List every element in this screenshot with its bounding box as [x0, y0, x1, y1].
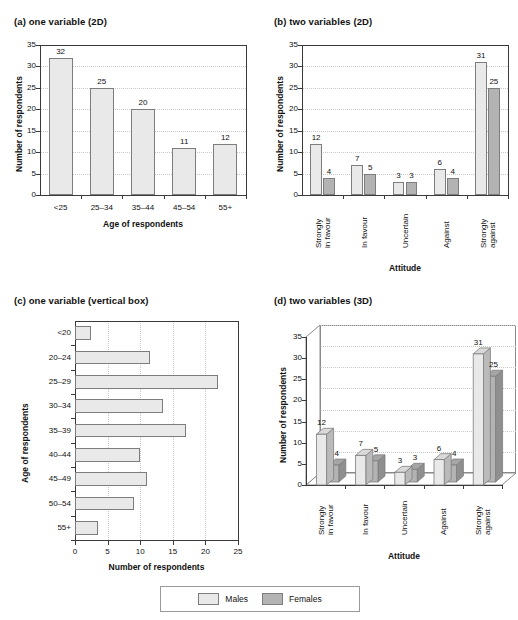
- y-category-label: 25–29: [33, 377, 71, 386]
- y-category-label: 55+: [33, 523, 71, 532]
- y-tick: [302, 400, 306, 401]
- bar-value-label: 5: [367, 445, 385, 454]
- x-axis-title: Number of respondents: [45, 562, 268, 572]
- bar-c-7: [75, 497, 134, 511]
- y-tick: [36, 131, 40, 132]
- x-tick-label: 15: [163, 547, 183, 556]
- x-category-label: Strongly: [317, 506, 326, 535]
- y-tick: [298, 174, 302, 175]
- plot-right-border: [508, 45, 509, 196]
- legend-swatch-males: [198, 593, 219, 605]
- bar-b-females-2: [406, 182, 418, 195]
- gridline-y: [320, 325, 516, 326]
- chart-d-plot-area: 05101520253035124Stronglyin favour75In f…: [258, 285, 518, 580]
- bar-value-label: 32: [49, 47, 73, 56]
- x-tick: [426, 196, 427, 199]
- y-tick: [298, 45, 302, 46]
- bar-a-3: [172, 148, 196, 195]
- gridline-y: [320, 388, 516, 389]
- x-tick-label: 25: [228, 547, 248, 556]
- panel-chart-b: (b) two variables (2D) 05101520253035124…: [258, 0, 518, 285]
- y-tick: [36, 66, 40, 67]
- panel-chart-d: (d) two variables (3D) 05101520253035124…: [258, 285, 518, 580]
- y-tick-label: 30: [14, 61, 36, 70]
- bar-value-label: 31: [472, 51, 490, 60]
- plot-right-border: [246, 45, 247, 196]
- x-tick: [140, 541, 141, 545]
- plot-top-border: [75, 321, 239, 322]
- x-tick: [108, 541, 109, 545]
- y-tick: [298, 195, 302, 196]
- y-tick: [36, 174, 40, 175]
- x-tick: [343, 196, 344, 199]
- bar-a-1: [90, 88, 114, 195]
- y-tick: [71, 491, 75, 492]
- y-tick: [36, 109, 40, 110]
- y-tick: [302, 443, 306, 444]
- bar-b-females-0: [323, 178, 335, 195]
- y-tick: [36, 195, 40, 196]
- bar-value-label: 12: [307, 133, 325, 142]
- x-tick: [502, 486, 503, 489]
- legend-swatch-females: [262, 593, 283, 605]
- y-tick: [302, 422, 306, 423]
- y-tick-label: 35: [280, 332, 302, 341]
- gridline-x: [205, 321, 206, 540]
- bar-c-5: [75, 448, 140, 462]
- x-category-label: 45–54: [164, 203, 205, 212]
- bar-b-males-2: [393, 182, 405, 195]
- bar-c-8: [75, 521, 98, 535]
- y-tick: [36, 152, 40, 153]
- y-tick: [36, 88, 40, 89]
- plot-right-border: [238, 321, 239, 541]
- y-axis-title: Number of respondents: [14, 76, 24, 172]
- bar-value-label: 12: [313, 418, 329, 427]
- bar-c-2: [75, 375, 218, 389]
- x-category-label: Uncertain: [401, 214, 410, 248]
- bar-a-0: [49, 58, 73, 195]
- x-tick: [164, 196, 165, 199]
- y-tick: [298, 152, 302, 153]
- x-tick: [424, 486, 425, 489]
- y-tick: [71, 540, 75, 541]
- y-tick: [302, 358, 306, 359]
- bar-a-4: [213, 144, 237, 195]
- x-axis-title: Attitude: [302, 263, 508, 273]
- bar-value-label: 4: [445, 449, 463, 458]
- y-tick-label: 0: [14, 190, 36, 199]
- x-category-label: Strongly: [479, 219, 488, 248]
- x-tick: [205, 541, 206, 545]
- y-tick: [298, 109, 302, 110]
- x-tick: [345, 486, 346, 489]
- x-tick: [467, 196, 468, 199]
- y-category-label: 40–44: [33, 450, 71, 459]
- bar-c-1: [75, 351, 150, 365]
- x-tick: [238, 541, 239, 545]
- x-tick: [246, 196, 247, 199]
- y-tick-label: 0: [280, 480, 302, 489]
- y-axis-line: [306, 337, 307, 486]
- legend-item-males: Males: [198, 593, 248, 605]
- x-category-label: in favour: [323, 217, 332, 248]
- x-tick: [173, 541, 174, 545]
- bar-value-label: 5: [361, 163, 379, 172]
- y-axis-line: [302, 45, 303, 196]
- x-category-label: Strongly: [314, 219, 323, 248]
- plot-top-border: [302, 45, 509, 46]
- y-tick-label: 0: [276, 190, 298, 199]
- panel-chart-c: (c) one variable (vertical box) 05101520…: [0, 285, 258, 580]
- x-axis-line: [40, 195, 247, 196]
- x-axis-title: Attitude: [306, 551, 502, 561]
- x-category-label: 35–44: [122, 203, 163, 212]
- x-tick: [508, 196, 509, 199]
- x-tick: [205, 196, 206, 199]
- chart-legend: Males Females: [160, 586, 360, 612]
- y-category-label: <20: [33, 328, 71, 337]
- y-tick: [298, 88, 302, 89]
- x-tick: [384, 196, 385, 199]
- y-tick-label: 35: [14, 40, 36, 49]
- y-tick: [71, 418, 75, 419]
- y-tick: [302, 337, 306, 338]
- y-axis-title: Age of respondents: [20, 403, 30, 483]
- bar-b-females-4: [488, 88, 500, 195]
